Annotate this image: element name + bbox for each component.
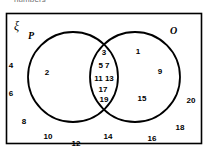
number-20: 20 <box>187 97 196 105</box>
universe-symbol-label: ξ <box>14 20 19 32</box>
number-9: 9 <box>158 68 162 76</box>
intersection-row-2: 5 7 <box>98 62 109 70</box>
number-10: 10 <box>44 133 53 141</box>
number-4: 4 <box>9 62 13 70</box>
number-8: 8 <box>22 118 26 126</box>
number-16: 16 <box>148 135 157 143</box>
number-14: 14 <box>104 133 113 141</box>
number-15: 15 <box>138 95 147 103</box>
intersection-row-4: 17 <box>99 86 108 94</box>
number-18: 18 <box>176 124 185 132</box>
number-12: 12 <box>72 140 81 148</box>
intersection-row-5: 19 <box>100 96 109 104</box>
intersection-row-3: 11 13 <box>94 75 114 83</box>
number-2: 2 <box>45 69 49 77</box>
intersection-row-1: 3 <box>102 49 106 57</box>
number-1: 1 <box>136 48 140 56</box>
number-6: 6 <box>9 90 13 98</box>
venn-diagram-figure: numbers ξ P O 4 6 8 10 12 14 16 18 20 2 … <box>0 0 208 156</box>
set-p-label: P <box>28 31 34 41</box>
set-o-label: O <box>170 26 177 36</box>
